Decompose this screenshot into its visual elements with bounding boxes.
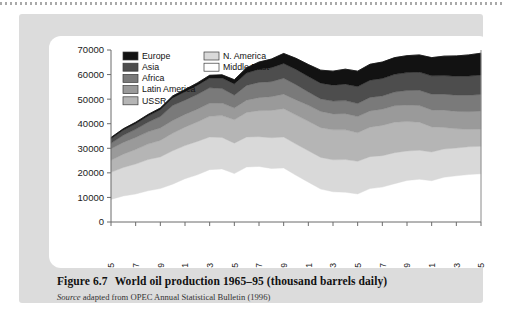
y-tick-label: 0 xyxy=(99,216,104,227)
legend-swatch-middle-east[interactable] xyxy=(204,63,219,71)
figure-source-line: Source adapted from OPEC Annual Statisti… xyxy=(57,292,487,302)
x-tick-label: 1987 xyxy=(378,263,388,268)
y-tick-label: 20000 xyxy=(78,167,104,178)
legend-label-ussr[interactable]: USSR xyxy=(142,96,166,106)
legend-swatch-n-america[interactable] xyxy=(204,52,219,60)
y-tick-label: 50000 xyxy=(78,94,104,105)
figure-page: 0100002000030000400005000060000700001965… xyxy=(0,0,505,321)
x-tick-label: 1977 xyxy=(254,263,264,268)
x-tick-label: 1995 xyxy=(476,263,486,268)
x-tick-label: 1989 xyxy=(402,263,412,268)
chart-card: 0100002000030000400005000060000700001965… xyxy=(49,36,491,268)
page-top-dotted-rule xyxy=(0,2,505,5)
legend-label-n-america[interactable]: N. America xyxy=(223,51,266,61)
legend-label-asia[interactable]: Asia xyxy=(142,62,159,72)
figure-caption: Figure 6.7World oil production 1965–95 (… xyxy=(57,275,487,302)
stacked-area-chart[interactable]: 0100002000030000400005000060000700001965… xyxy=(49,36,491,268)
legend-swatch-europe[interactable] xyxy=(123,52,138,60)
source-label: Source xyxy=(57,292,81,302)
y-tick-label: 30000 xyxy=(78,143,104,154)
legend-label-latin-america[interactable]: Latin America xyxy=(142,84,195,94)
y-tick-label: 70000 xyxy=(78,44,104,55)
x-tick-label: 1981 xyxy=(304,263,314,268)
y-tick-label: 60000 xyxy=(78,69,104,80)
x-tick-label: 1971 xyxy=(180,263,190,268)
x-tick-label: 1969 xyxy=(156,263,166,268)
legend-swatch-ussr[interactable] xyxy=(123,97,138,105)
chart-area[interactable]: 0100002000030000400005000060000700001965… xyxy=(49,36,491,268)
figure-title-line: Figure 6.7World oil production 1965–95 (… xyxy=(57,275,487,287)
x-tick-label: 1983 xyxy=(328,263,338,268)
legend-swatch-asia[interactable] xyxy=(123,63,138,71)
legend-label-middle-east[interactable]: Middle East xyxy=(223,62,270,72)
source-text: adapted from OPEC Annual Statistical Bul… xyxy=(83,292,271,302)
x-tick-label: 1991 xyxy=(427,263,437,268)
figure-title-text: World oil production 1965–95 (thousand b… xyxy=(115,275,388,287)
x-tick-label: 1975 xyxy=(230,263,240,268)
x-tick-label: 1967 xyxy=(131,263,141,268)
legend-label-europe[interactable]: Europe xyxy=(142,51,170,61)
x-tick-label: 1979 xyxy=(279,263,289,268)
x-tick-label: 1965 xyxy=(106,263,116,268)
figure-number: Figure 6.7 xyxy=(57,275,108,287)
x-tick-label: 1973 xyxy=(205,263,215,268)
y-tick-label: 40000 xyxy=(78,118,104,129)
legend-swatch-africa[interactable] xyxy=(123,74,138,82)
y-tick-label: 10000 xyxy=(78,192,104,203)
x-tick-label: 1993 xyxy=(452,263,462,268)
legend-swatch-latin-america[interactable] xyxy=(123,86,138,94)
figure-panel: 0100002000030000400005000060000700001965… xyxy=(19,14,483,303)
x-tick-label: 1985 xyxy=(353,263,363,268)
legend-label-africa[interactable]: Africa xyxy=(142,73,165,83)
